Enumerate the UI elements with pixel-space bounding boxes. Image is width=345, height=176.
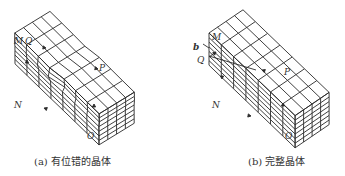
label-a-O: O xyxy=(87,131,95,141)
caption-b: (b) 完整晶体 xyxy=(248,153,305,168)
label-a-M: M xyxy=(13,36,24,46)
diagram-canvas: M Q P N O M Q P N O b xyxy=(0,0,345,176)
label-a-Q: Q xyxy=(25,36,33,46)
label-b-N: N xyxy=(211,100,221,110)
label-b-M: M xyxy=(211,32,222,42)
caption-a: (a) 有位错的晶体 xyxy=(34,153,111,168)
label-b-Q: Q xyxy=(197,55,205,65)
label-a-P: P xyxy=(98,63,106,73)
label-a-N: N xyxy=(13,100,23,110)
label-b-burgers: b xyxy=(193,42,199,52)
perfect-crystal xyxy=(203,10,329,148)
crystal-with-dislocation xyxy=(15,11,135,144)
label-b-O: O xyxy=(285,131,293,141)
label-b-P: P xyxy=(283,67,291,77)
